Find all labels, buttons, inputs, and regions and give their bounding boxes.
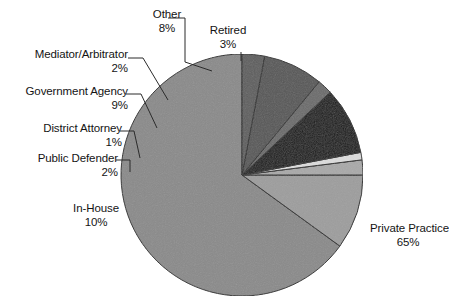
slice-label-district-attorney-percent: 1% bbox=[6, 136, 122, 150]
slice-label-mediator-arbitrator-percent: 2% bbox=[6, 62, 128, 76]
slice-label-public-defender: Public Defender 2% bbox=[10, 152, 118, 179]
slice-label-district-attorney-name: District Attorney bbox=[6, 122, 122, 136]
slice-label-other: Other 8% bbox=[139, 8, 195, 35]
slice-label-other-percent: 8% bbox=[139, 22, 195, 36]
slice-label-private-practice: Private Practice 65% bbox=[370, 222, 446, 249]
slice-label-retired-percent: 3% bbox=[197, 38, 259, 52]
slice-label-private-practice-percent: 65% bbox=[370, 236, 446, 250]
pie-slices-group bbox=[121, 54, 363, 296]
slice-label-in-house-name: In-House bbox=[58, 202, 134, 216]
slice-label-other-name: Other bbox=[139, 8, 195, 22]
slice-label-in-house-percent: 10% bbox=[58, 216, 134, 230]
slice-label-public-defender-percent: 2% bbox=[10, 166, 118, 180]
slice-label-government-agency-name: Government Agency bbox=[2, 85, 128, 99]
slice-label-mediator-arbitrator-name: Mediator/Arbitrator bbox=[6, 48, 128, 62]
slice-label-mediator-arbitrator: Mediator/Arbitrator 2% bbox=[6, 48, 128, 75]
slice-label-in-house: In-House 10% bbox=[58, 202, 134, 229]
slice-label-retired-name: Retired bbox=[197, 24, 259, 38]
slice-label-retired: Retired 3% bbox=[197, 24, 259, 51]
slice-label-private-practice-name: Private Practice bbox=[370, 222, 446, 236]
slice-label-district-attorney: District Attorney 1% bbox=[6, 122, 122, 149]
slice-label-public-defender-name: Public Defender bbox=[10, 152, 118, 166]
slice-label-government-agency-percent: 9% bbox=[2, 99, 128, 113]
slice-label-government-agency: Government Agency 9% bbox=[2, 85, 128, 112]
